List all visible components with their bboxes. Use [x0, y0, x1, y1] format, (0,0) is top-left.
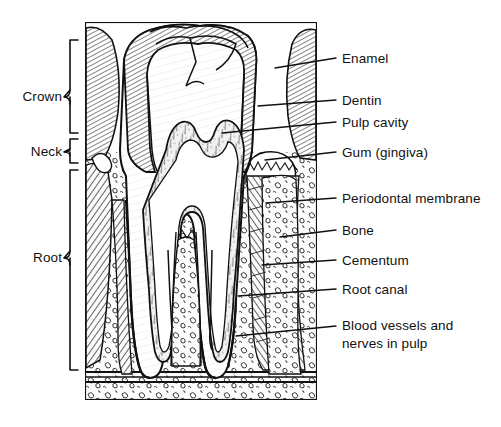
callout-label-root-canal: Root canal [342, 281, 408, 298]
tooth-anatomy-figure: Crown Neck Root Enamel Dentin Pulp cavit… [0, 0, 501, 427]
callout-label-pulp-cavity: Pulp cavity [342, 114, 408, 131]
callout-label-blood-vessels-line1: Blood vessels and [342, 317, 453, 334]
region-brackets [64, 40, 78, 370]
callout-label-blood-vessels-line2: nerves in pulp [342, 335, 427, 352]
region-label-neck: Neck [22, 143, 62, 160]
bracket-neck [64, 139, 78, 163]
illustration-body [85, 22, 317, 400]
bone-right-socket [262, 175, 301, 374]
region-label-root: Root [24, 249, 62, 266]
callout-label-bone: Bone [342, 222, 374, 239]
callout-label-gum-gingiva: Gum (gingiva) [342, 144, 428, 161]
bracket-crown [64, 40, 78, 133]
callout-label-dentin: Dentin [342, 92, 382, 109]
interradicular-bone [172, 237, 201, 366]
callout-label-periodontal-membrane: Periodontal membrane [342, 190, 481, 207]
region-label-crown: Crown [13, 88, 62, 105]
tooth-cross-section-illustration [0, 0, 501, 427]
callout-label-enamel: Enamel [342, 50, 388, 67]
bracket-root [64, 170, 78, 370]
basal-bone-band [86, 384, 316, 400]
callout-label-cementum: Cementum [342, 252, 409, 269]
